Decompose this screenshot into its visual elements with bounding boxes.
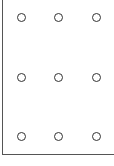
- circle-icon: [92, 132, 101, 141]
- circle-icon: [54, 132, 63, 141]
- circle-icon: [54, 73, 63, 82]
- circle-icon: [17, 13, 26, 22]
- circle-icon: [92, 73, 101, 82]
- circle-icon: [54, 13, 63, 22]
- circle-icon: [92, 13, 101, 22]
- circle-icon: [17, 73, 26, 82]
- circle-icon: [17, 132, 26, 141]
